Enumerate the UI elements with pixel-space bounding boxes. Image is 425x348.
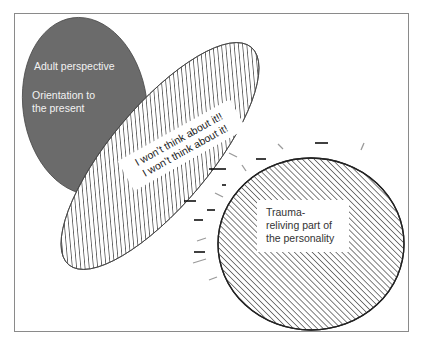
trauma-line-2: reliving part of (266, 219, 349, 232)
trauma-line-3: the personality (266, 232, 349, 245)
trauma-line-1: Trauma- (266, 206, 349, 219)
trauma-label-box: Trauma- reliving part of the personality (257, 200, 349, 252)
diagram-canvas (0, 0, 425, 348)
orientation-label-line2: the present (32, 102, 85, 115)
orientation-label-line1: Orientation to (32, 89, 95, 102)
adult-perspective-label: Adult perspective (34, 60, 115, 73)
